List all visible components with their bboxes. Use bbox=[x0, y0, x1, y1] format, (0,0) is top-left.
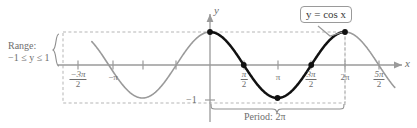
cosine-plot-svg bbox=[0, 0, 417, 128]
x-tick-den: 2 bbox=[305, 80, 316, 89]
cosine-graph-figure: y x −1 Range: −1 ≤ y ≤ 1 Period: 2π y = … bbox=[0, 0, 417, 128]
x-tick-den: 2 bbox=[69, 80, 86, 89]
x-axis-label: x bbox=[405, 57, 410, 69]
y-axis-label: y bbox=[214, 4, 219, 16]
x-tick-label-5pi-over-2: 5π2 bbox=[373, 70, 384, 89]
x-tick-label-neg-3pi-over-2: −3π2 bbox=[69, 70, 86, 89]
y-tick-label-minus-one: −1 bbox=[186, 94, 197, 105]
period-annotation: Period: 2π bbox=[244, 111, 285, 122]
point-2pi-1 bbox=[342, 29, 348, 35]
x-tick-label-pi-over-2: π2 bbox=[241, 70, 248, 89]
x-tick-den: 2 bbox=[241, 80, 248, 89]
x-tick-label-pi: π bbox=[276, 72, 281, 82]
x-tick-label-3pi-over-2: 3π2 bbox=[305, 70, 316, 89]
x-tick-label-2pi: 2π bbox=[340, 72, 349, 82]
point-3pi-over-2 bbox=[308, 62, 314, 68]
x-tick-den: 2 bbox=[373, 80, 384, 89]
range-annotation-line1: Range: bbox=[8, 40, 50, 52]
equation-callout: y = cos x bbox=[300, 6, 352, 23]
point-0-1 bbox=[207, 29, 213, 35]
range-annotation-line2: −1 ≤ y ≤ 1 bbox=[8, 52, 50, 64]
point-pi-neg1 bbox=[275, 95, 281, 101]
range-annotation: Range: −1 ≤ y ≤ 1 bbox=[8, 40, 50, 64]
x-tick-label-neg-pi: −π bbox=[108, 72, 118, 82]
point-pi-over-2 bbox=[241, 62, 247, 68]
